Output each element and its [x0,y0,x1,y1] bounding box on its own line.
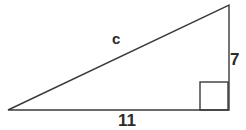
right-angle-marker-icon [200,82,228,110]
triangle-outline [8,5,229,110]
right-triangle-figure: c 7 11 [0,0,246,130]
base-leg-label: 11 [118,112,136,129]
hypotenuse-label: c [112,31,120,46]
vertical-leg-label: 7 [230,51,239,68]
